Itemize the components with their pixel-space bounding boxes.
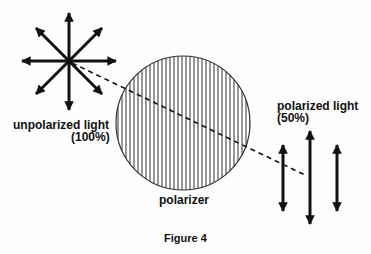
polarizer-label: polarizer	[159, 194, 209, 207]
figure-caption: Figure 4	[164, 232, 207, 245]
unpolarized-light-arrows	[22, 13, 116, 110]
polarizer-disc	[116, 50, 250, 200]
unpolarized-percentage: (100%)	[71, 131, 110, 144]
polarized-light-arrows	[283, 131, 337, 224]
polarized-percentage: (50%)	[277, 112, 309, 125]
